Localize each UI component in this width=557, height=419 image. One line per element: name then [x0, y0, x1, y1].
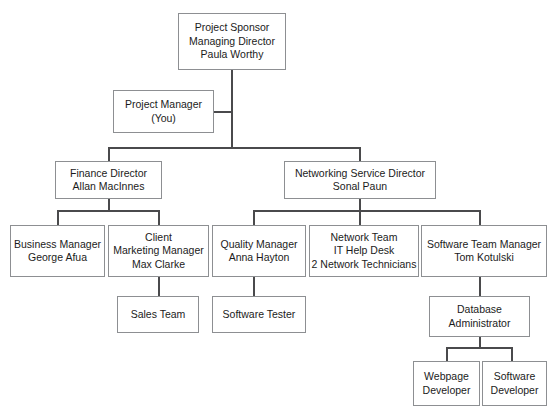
connector-finance-children-bar	[57, 210, 160, 212]
node-line: Business Manager	[14, 238, 101, 252]
connector-webpage-developer-drop	[446, 347, 448, 361]
node-line: Sonal Paun	[333, 180, 387, 194]
node-line: Developer	[423, 384, 471, 398]
connector-database-administrator	[479, 277, 481, 296]
node-line: Project Sponsor	[195, 21, 270, 35]
node-network-team[interactable]: Network Team IT Help Desk 2 Network Tech…	[309, 225, 419, 277]
node-project-sponsor[interactable]: Project Sponsor Managing Director Paula …	[178, 13, 286, 70]
node-software-developer[interactable]: Software Developer	[482, 361, 547, 406]
node-line: Allan MacInnes	[73, 180, 145, 194]
node-line: IT Help Desk	[334, 244, 395, 258]
node-client-marketing-manager[interactable]: Client Marketing Manager Max Clarke	[108, 225, 209, 277]
node-project-manager[interactable]: Project Manager (You)	[113, 90, 214, 133]
node-line: Sales Team	[131, 308, 186, 322]
connector-sponsor-trunk	[231, 70, 233, 149]
node-line: Finance Director	[70, 167, 147, 181]
node-networking-service-director[interactable]: Networking Service Director Sonal Paun	[284, 161, 436, 199]
connector-software-team-drop	[479, 210, 481, 225]
connector-quality-manager-drop	[253, 210, 255, 225]
node-line: Network Team	[331, 231, 398, 245]
node-webpage-developer[interactable]: Webpage Developer	[413, 361, 480, 406]
node-line: 2 Network Technicians	[312, 258, 417, 272]
connector-networking-children-bar	[253, 210, 481, 212]
node-line: Webpage	[424, 370, 469, 384]
connector-business-manager-drop	[57, 210, 59, 225]
connector-directors-bar	[108, 147, 361, 149]
connector-network-team-drop	[359, 210, 361, 225]
node-software-team-manager[interactable]: Software Team Manager Tom Kotulski	[421, 225, 547, 277]
connector-project-manager-stub	[213, 111, 233, 113]
node-line: Software	[494, 370, 535, 384]
node-line: (You)	[151, 112, 176, 126]
node-line: Software Tester	[223, 308, 296, 322]
node-line: Database	[457, 303, 502, 317]
node-finance-director[interactable]: Finance Director Allan MacInnes	[55, 161, 162, 199]
node-line: Software Team Manager	[427, 238, 541, 252]
node-line: Paula Worthy	[201, 48, 264, 62]
org-chart: Project Sponsor Managing Director Paula …	[0, 0, 557, 419]
node-line: Managing Director	[189, 35, 275, 49]
node-line: Developer	[491, 384, 539, 398]
node-sales-team[interactable]: Sales Team	[117, 296, 199, 333]
node-line: Max Clarke	[132, 258, 185, 272]
node-line: Quality Manager	[220, 238, 297, 252]
node-software-tester[interactable]: Software Tester	[212, 296, 306, 333]
node-database-administrator[interactable]: Database Administrator	[429, 296, 530, 337]
connector-client-marketing-drop	[158, 210, 160, 225]
connector-networking-drop	[359, 147, 361, 161]
node-line: George Afua	[28, 251, 87, 265]
node-line: Project Manager	[125, 98, 202, 112]
node-quality-manager[interactable]: Quality Manager Anna Hayton	[212, 225, 306, 277]
node-line: Client	[145, 231, 172, 245]
node-line: Anna Hayton	[229, 251, 290, 265]
connector-software-developer-drop	[511, 347, 513, 361]
connector-developers-bar	[446, 347, 513, 349]
node-line: Tom Kotulski	[454, 251, 514, 265]
node-line: Networking Service Director	[295, 167, 425, 181]
connector-software-tester	[253, 277, 255, 296]
node-line: Administrator	[449, 317, 511, 331]
node-line: Marketing Manager	[113, 244, 203, 258]
connector-finance-drop	[108, 147, 110, 161]
connector-sales-team	[158, 277, 160, 296]
node-business-manager[interactable]: Business Manager George Afua	[10, 225, 105, 277]
